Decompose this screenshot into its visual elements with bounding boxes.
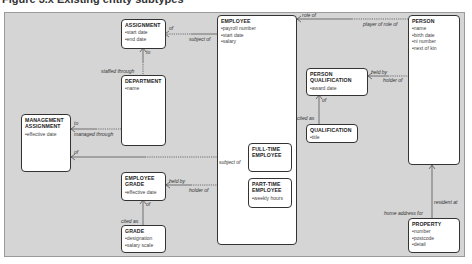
entity-name: MANAGEMENT ASSIGNMENT	[25, 117, 67, 130]
label-department-staffed-through: staffed through	[101, 68, 134, 74]
entity-name: QUALIFICATION	[310, 127, 354, 133]
entity-full-time-employee[interactable]: FULL-TIME EMPLOYEE	[248, 143, 292, 172]
label-pq-held-by: held by	[371, 69, 387, 75]
entity-name: PROPERTY	[412, 221, 456, 227]
entity-qualification[interactable]: QUALIFICATION title	[306, 124, 358, 143]
attribute: effective date	[125, 189, 162, 195]
attribute: name	[125, 85, 162, 91]
entity-property[interactable]: PROPERTY number postcode detail	[408, 218, 460, 253]
label-department-managed-through: managed through	[74, 131, 113, 137]
entity-name: ASSIGNMENT	[125, 22, 162, 28]
entity-grade[interactable]: GRADE designation salary scale	[121, 225, 166, 253]
entity-person[interactable]: PERSON name birth date ni number next of…	[408, 15, 460, 165]
entity-name: EMPLOYEE	[221, 18, 293, 24]
entity-name: FULL-TIME EMPLOYEE	[252, 146, 288, 159]
attribute: effective date	[25, 131, 67, 137]
entity-assignment[interactable]: ASSIGNMENT start date end date	[121, 19, 166, 49]
attribute: next of kin	[412, 45, 456, 51]
label-pq-of: of	[322, 97, 326, 103]
label-assignment-of: of	[169, 25, 173, 31]
entity-name: PERSON QUALIFICATION	[310, 71, 364, 84]
label-eg-held-by: held by	[169, 178, 185, 184]
label-ma-to: to	[74, 120, 78, 126]
label-eg-of: of	[146, 201, 150, 207]
attribute: end date	[125, 36, 162, 42]
label-property-home-address-for: home address for	[384, 210, 423, 216]
label-employee-role-of: role of	[302, 12, 316, 18]
label-qualification-cited-as: cited as	[297, 115, 314, 121]
entity-part-time-employee[interactable]: PART-TIME EMPLOYEE weekly hours	[248, 178, 292, 208]
entity-department[interactable]: DEPARTMENT name	[121, 75, 166, 146]
entity-name: EMPLOYEE GRADE	[125, 175, 162, 188]
label-ma-of: of	[74, 149, 78, 155]
label-person-resident-at: resident at	[434, 199, 457, 205]
attribute: salary scale	[125, 242, 162, 248]
attribute: award date	[310, 85, 364, 91]
entity-name: GRADE	[125, 228, 162, 234]
label-person-player-of-role-of: player of role of	[363, 21, 397, 27]
entity-name: DEPARTMENT	[125, 78, 162, 84]
attribute: title	[310, 134, 354, 140]
entity-name: PART-TIME EMPLOYEE	[252, 181, 288, 194]
attribute: detail	[412, 241, 456, 247]
entity-name: PERSON	[412, 18, 456, 24]
entity-person-qualification[interactable]: PERSON QUALIFICATION award date	[306, 68, 368, 96]
label-fte-subject-of: subject of	[219, 159, 240, 165]
entity-employee-grade[interactable]: EMPLOYEE GRADE effective date	[121, 172, 166, 201]
label-grade-cited-as: cited as	[121, 218, 138, 224]
attribute: salary	[221, 38, 293, 44]
attribute: weekly hours	[252, 195, 288, 201]
label-assignment-to: to	[146, 49, 150, 55]
label-employee-holder-of: holder of	[189, 187, 208, 193]
entity-employee[interactable]: EMPLOYEE payroll number start date salar…	[217, 15, 297, 245]
entity-management-assignment[interactable]: MANAGEMENT ASSIGNMENT effective date	[21, 114, 71, 172]
label-employee-subject-of: subject of	[189, 36, 210, 42]
label-person-holder-of: holder of	[383, 77, 402, 83]
